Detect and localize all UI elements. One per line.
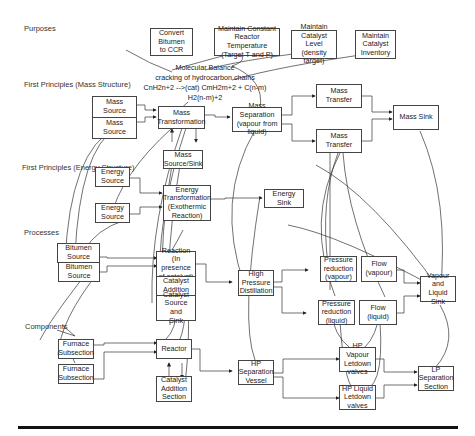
hp-separation-vessel[interactable]: HP Separation Vessel [238,360,274,385]
annotation-title: Molecular Balance [130,63,280,73]
reactor[interactable]: Reactor [156,339,192,359]
level-label-purposes: Purposes [24,24,56,33]
mass-sink[interactable]: Mass Sink [393,105,439,130]
catalyst-addition-section[interactable]: Catalyst Addition Section [156,376,192,402]
mass-transfer-1[interactable]: Mass Transfer [316,84,362,108]
mass-source-2[interactable]: Mass Source [92,117,137,139]
purpose-convert-bitumen[interactable]: Convert Bitumen to CCR [150,28,193,56]
abstraction-hierarchy-diagram: Purposes First Principles (Mass Structur… [0,0,475,436]
reaction[interactable]: Reaction (In presence of catalyst) [156,251,196,277]
bitumen-source-1[interactable]: Bitumen Source [57,243,100,263]
annotation-equation: CnH2n+2 -->(cat) CmH2m+2 + C(n-m) [130,83,280,93]
level-label-processes: Processes [24,228,59,237]
molecular-balance-annotation: Molecular Balance cracking of hydrocarbo… [130,63,280,103]
level-label-mass-structure: First Principles (Mass Structure) [24,80,131,89]
furnace-subsection-1[interactable]: Furnace Subsection [58,339,94,359]
mass-transfer-2[interactable]: Mass Transfer [316,129,362,153]
purpose-maintain-catalyst-level[interactable]: Maintain Catalyst Level (density target) [291,30,337,59]
lp-separation-section[interactable]: LP Separation Section [418,366,454,391]
furnace-subsection-2[interactable]: Furnace Subsection [58,364,94,384]
pressure-reduction-liquid[interactable]: Pressure reduction (liquid) [318,300,355,325]
mass-source-sink[interactable]: Mass Source/Sink [163,150,203,169]
energy-source-1[interactable]: Energy Source [95,167,130,187]
annotation-subtitle: cracking of hydrocarbon chains [130,73,280,83]
level-label-components: Components [25,322,68,331]
high-pressure-distillation[interactable]: High Pressure Distillation [238,270,274,296]
hp-liquid-letdown-valves[interactable]: HP Liquid Letdown valves [339,385,376,410]
vapour-and-liquid-sink[interactable]: Vapour and Liquid Sink [420,276,456,302]
catalyst-source-and-sink[interactable]: Catalyst Source and Sink [156,295,196,321]
flow-vapour[interactable]: Flow (vapour) [361,256,397,282]
energy-transformation[interactable]: Energy Transformation (Exothermic Reacti… [163,185,211,221]
energy-sink[interactable]: Energy Sink [264,189,304,208]
energy-source-2[interactable]: Energy Source [95,203,130,223]
purpose-maintain-catalyst-inventory[interactable]: Maintain Catalyst Inventory [355,30,396,59]
mass-separation[interactable]: Mass Separation (vapour from liquid) [232,107,282,132]
flow-liquid[interactable]: Flow (liquid) [359,300,397,325]
pressure-reduction-vapour[interactable]: Pressure reduction (vapour) [320,256,357,282]
bitumen-source-2[interactable]: Bitumen Source [58,262,100,282]
mass-source-1[interactable]: Mass Source [92,96,137,118]
purpose-maintain-reactor-temp[interactable]: Maintain Constant Reactor Temperature (T… [214,28,280,56]
mass-transformation[interactable]: Mass Transformation [158,106,205,129]
bottom-rule [18,426,458,429]
hp-vapour-letdown-valves[interactable]: HP Vapour Letdown valves [339,347,376,372]
